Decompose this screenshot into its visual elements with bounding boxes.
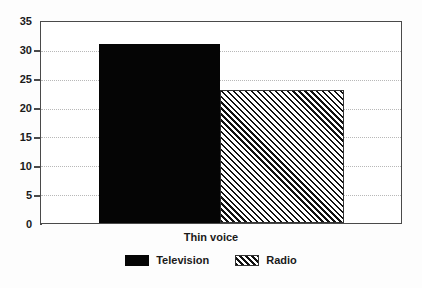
- plot-area: [40, 21, 402, 224]
- legend-item-television: Television: [125, 255, 209, 266]
- y-axis-tick-label-20: 20: [2, 103, 32, 114]
- y-axis-tick-label-15: 15: [2, 132, 32, 143]
- y-axis-tick-label-0: 0: [2, 219, 32, 230]
- y-axis-tick-label-30: 30: [2, 45, 32, 56]
- gridline-25: [41, 80, 401, 81]
- y-axis-tick-label-35: 35: [2, 16, 32, 27]
- y-axis-tick-label-5: 5: [2, 190, 32, 201]
- x-axis-category-label: Thin voice: [0, 231, 422, 243]
- bar-radio-thin-voice: [220, 90, 344, 223]
- bar-chart-figure: 35 30 25 20 15 10 5 0 Thin voice Televis…: [0, 0, 422, 288]
- diagonal-hatch-swatch-icon: [235, 255, 259, 266]
- solid-black-swatch-icon: [125, 255, 149, 266]
- chart-legend: Television Radio: [0, 255, 422, 266]
- y-axis-tick-label-25: 25: [2, 74, 32, 85]
- legend-label-radio: Radio: [266, 255, 297, 266]
- legend-label-television: Television: [156, 255, 209, 266]
- y-axis-tick-label-group: 35 30 25 20 15 10 5 0: [0, 0, 32, 288]
- gridline-30: [41, 51, 401, 52]
- legend-item-radio: Radio: [235, 255, 297, 266]
- bar-television-thin-voice: [99, 44, 220, 223]
- y-axis-tick-label-10: 10: [2, 161, 32, 172]
